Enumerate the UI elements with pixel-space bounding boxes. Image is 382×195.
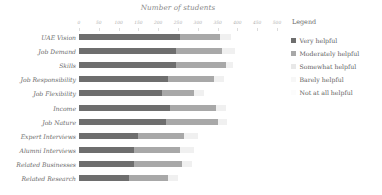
category-label: Job Responsibility [4, 76, 76, 83]
category-label: Related Research [4, 174, 76, 181]
bar-row [79, 48, 277, 54]
legend-item[interactable]: Barely helpful [291, 73, 379, 86]
x-tick-mark [277, 28, 278, 31]
legend-swatch-icon [291, 90, 296, 95]
category-label: Expert Interviews [4, 132, 76, 139]
bar-segment [194, 90, 204, 96]
x-tick-label: 250 [174, 20, 182, 25]
legend-item-label: Very helpful [300, 37, 338, 44]
category-label: Income [4, 104, 76, 111]
category-label: Skills [4, 62, 76, 69]
legend-title: Legend [291, 18, 379, 26]
bar-segment [226, 62, 234, 68]
x-tick-label: 300 [194, 20, 202, 25]
bar-segment [129, 175, 169, 181]
plot-area [79, 30, 277, 185]
legend-item-label: Somewhat helpful [300, 63, 357, 70]
x-tick-label: 400 [233, 20, 241, 25]
legend-swatch-icon [291, 51, 296, 56]
bar-segment [222, 48, 236, 54]
bar-segment [170, 105, 216, 111]
x-tick-label: 100 [114, 20, 122, 25]
category-label: Alumni Interviews [4, 146, 76, 153]
legend: Legend Very helpfulModerately helpfulSom… [291, 18, 379, 99]
category-label: Job Flexibility [4, 90, 76, 97]
bar-segment [79, 105, 170, 111]
bar-segment [214, 76, 224, 82]
bar-row [79, 34, 277, 40]
legend-item-label: Not at all helpful [300, 89, 353, 96]
bar-segment [180, 147, 194, 153]
bar-segment [79, 133, 138, 139]
bar-segment [79, 76, 168, 82]
bar-row [79, 161, 277, 167]
chart-title: Number of students [78, 3, 278, 12]
legend-swatch-icon [291, 77, 296, 82]
x-tick-label: 500 [273, 20, 281, 25]
bar-segment [176, 62, 226, 68]
legend-item[interactable]: Moderately helpful [291, 47, 379, 60]
bar-row [79, 147, 277, 153]
bar-segment [134, 147, 180, 153]
x-tick-label: 150 [134, 20, 142, 25]
bar-row [79, 76, 277, 82]
bar-segment [79, 90, 162, 96]
legend-item[interactable]: Very helpful [291, 34, 379, 47]
category-label: Job Nature [4, 118, 76, 125]
x-tick-label: 50 [96, 20, 102, 25]
legend-item[interactable]: Somewhat helpful [291, 60, 379, 73]
bar-row [79, 105, 277, 111]
bar-segment [79, 175, 129, 181]
bar-row [79, 119, 277, 125]
bar-segment [216, 105, 226, 111]
y-axis-labels: UAE VisionJob DemandSkillsJob Responsibi… [4, 30, 76, 185]
bar-segment [79, 119, 166, 125]
bar-segment [79, 34, 180, 40]
stacked-bar-chart: Number of students 050100150200250300350… [0, 0, 382, 195]
legend-item-label: Moderately helpful [300, 50, 360, 57]
bar-segment [166, 119, 217, 125]
x-tick-label: 350 [213, 20, 221, 25]
bar-segment [79, 147, 134, 153]
bar-row [79, 133, 277, 139]
bar-segment [79, 48, 176, 54]
legend-item-label: Barely helpful [300, 76, 344, 83]
bar-row [79, 62, 277, 68]
x-axis: 050100150200250300350400450500 [79, 20, 277, 30]
x-tick-label: 0 [78, 20, 81, 25]
bar-segment [162, 90, 194, 96]
bar-segment [168, 175, 178, 181]
bar-segment [220, 34, 232, 40]
bar-row [79, 90, 277, 96]
bar-segment [138, 133, 184, 139]
bar-segment [182, 161, 192, 167]
bar-segment [134, 161, 182, 167]
bar-segment [180, 34, 220, 40]
legend-item-list: Very helpfulModerately helpfulSomewhat h… [291, 34, 379, 99]
bar-segment [176, 48, 222, 54]
bar-segment [79, 161, 134, 167]
bar-row [79, 175, 277, 181]
x-tick-label: 200 [154, 20, 162, 25]
bar-segment [79, 62, 176, 68]
legend-swatch-icon [291, 64, 296, 69]
legend-swatch-icon [291, 38, 296, 43]
category-label: Job Demand [4, 48, 76, 55]
bar-segment [168, 76, 214, 82]
x-tick-label: 450 [253, 20, 261, 25]
category-label: UAE Vision [4, 34, 76, 41]
legend-item[interactable]: Not at all helpful [291, 86, 379, 99]
category-label: Related Businesses [4, 160, 76, 167]
bar-segment [218, 119, 228, 125]
bar-segment [184, 133, 198, 139]
